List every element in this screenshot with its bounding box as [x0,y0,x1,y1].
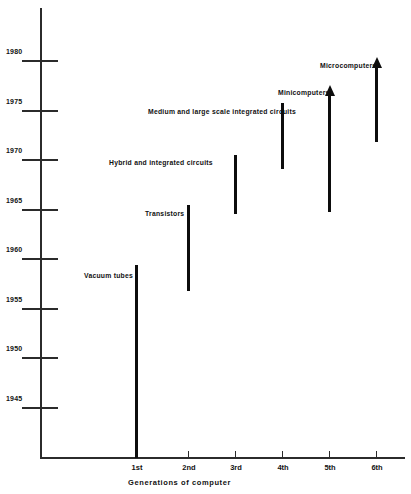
bar-label-medium-large-scale-integrated-circuits: Medium and large scale integrated circui… [148,108,296,115]
x-axis-tick-3rd [235,451,236,458]
x-axis-tick-label-2nd: 2nd [182,463,195,472]
y-axis-tick-1950 [22,357,58,359]
x-axis-tick-4th [282,451,283,458]
bar-label-vacuum-tubes: Vacuum tubes [84,272,133,279]
y-axis-tick-1970 [22,159,58,161]
bar-3rd-generation [234,155,237,214]
y-axis-tick-1955 [22,308,58,310]
x-axis-tick-6th [376,451,377,458]
y-axis-tick-label-1980: 1980 [6,48,22,55]
x-axis-tick-2nd [188,451,189,458]
bar-label-microcomputers: Microcomputers [320,62,376,69]
y-axis-tick-1980 [22,60,58,62]
y-axis-tick-1960 [22,258,58,260]
bar-1st-generation [135,265,138,458]
x-axis-title: Generations of computer [128,478,231,487]
bar-6th-generation [375,68,378,142]
bar-5th-generation [328,95,331,212]
bar-label-transistors: Transistors [145,210,184,217]
bar-label-hybrid-integrated-circuits: Hybrid and integrated circuits [109,159,213,166]
y-axis-line [40,8,42,458]
x-axis-tick-label-5th: 5th [324,463,335,472]
x-axis-tick-label-3rd: 3rd [230,463,242,472]
y-axis-tick-label-1945: 1945 [6,395,22,402]
computer-generations-timeline-chart: 1980 1975 1970 1965 1960 1955 1950 1945 … [0,0,411,494]
x-axis-tick-5th [329,451,330,458]
y-axis-tick-label-1960: 1960 [6,246,22,253]
x-axis-line [40,457,405,459]
x-axis-tick-label-1st: 1st [132,463,143,472]
y-axis-tick-1945 [22,407,58,409]
x-axis-tick-label-6th: 6th [371,463,382,472]
bar-2nd-generation [187,205,190,291]
bar-label-minicomputers: Minicomputers [278,89,330,96]
y-axis-tick-1965 [22,209,58,211]
y-axis-tick-label-1965: 1965 [6,197,22,204]
y-axis-tick-1975 [22,110,58,112]
y-axis-tick-label-1955: 1955 [6,296,22,303]
x-axis-tick-label-4th: 4th [277,463,288,472]
y-axis-tick-label-1950: 1950 [6,345,22,352]
y-axis-tick-label-1970: 1970 [6,147,22,154]
y-axis-tick-label-1975: 1975 [6,98,22,105]
